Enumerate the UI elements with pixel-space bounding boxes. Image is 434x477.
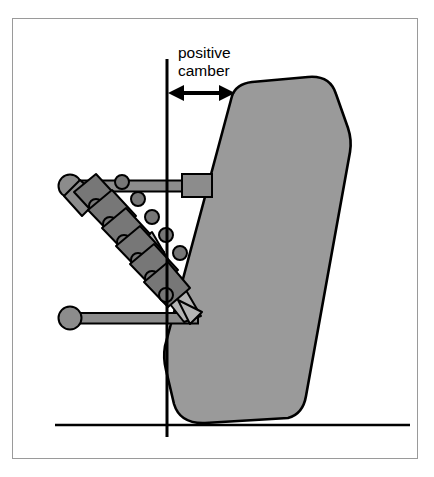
camber-label-line2: camber bbox=[178, 62, 230, 79]
camber-label-line1: positive bbox=[178, 44, 231, 61]
arrow-head-left bbox=[168, 85, 184, 101]
lower-arm-ball-joint bbox=[59, 307, 82, 330]
diagram-canvas: positive camber bbox=[0, 0, 434, 477]
camber-double-arrow bbox=[168, 85, 235, 101]
tire-wheel bbox=[164, 77, 350, 423]
coil-spring bbox=[74, 174, 190, 307]
camber-diagram-svg: positive camber bbox=[0, 0, 434, 477]
diagram-graphics: positive camber bbox=[0, 0, 434, 477]
